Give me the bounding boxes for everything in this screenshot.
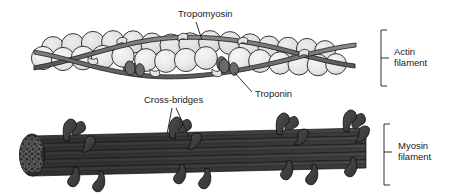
actin-monomer	[155, 50, 178, 73]
muscle-filament-figure: Tropomyosin Troponin Cross-bridges Actin…	[0, 0, 467, 195]
myosin-filament-label-line2: filament	[398, 151, 432, 162]
cross-bridges-label: Cross-bridges	[144, 94, 203, 105]
filament-diagram-svg: Tropomyosin Troponin Cross-bridges Actin…	[0, 0, 467, 195]
actin-filament-label-line1: Actin	[394, 46, 415, 57]
actin-monomer	[195, 47, 218, 70]
tropomyosin-label: Tropomyosin	[178, 8, 233, 19]
actin-filament-label-line2: filament	[394, 57, 428, 68]
cross-section-face	[20, 134, 45, 176]
actin-monomer	[174, 48, 197, 71]
myosin-filament-label-line1: Myosin	[398, 140, 428, 151]
troponin-label: Troponin	[255, 88, 292, 99]
